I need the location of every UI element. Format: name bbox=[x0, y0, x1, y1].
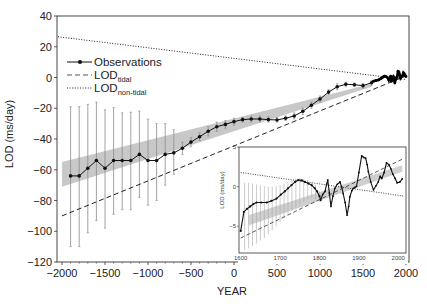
observation-marker bbox=[189, 140, 193, 144]
y-tick-label: −80 bbox=[33, 195, 52, 207]
inset-marker bbox=[322, 194, 324, 196]
inset-marker bbox=[381, 178, 383, 180]
inset-marker bbox=[354, 187, 356, 189]
telescopic-marker bbox=[390, 80, 393, 83]
inset-marker bbox=[318, 195, 320, 197]
y-tick-label: −40 bbox=[33, 133, 52, 145]
inset-x-tick-label: 1700 bbox=[273, 255, 287, 261]
inset-marker bbox=[396, 182, 398, 184]
inset-marker bbox=[401, 178, 403, 180]
observation-marker bbox=[241, 118, 245, 122]
y-tick-label: 20 bbox=[40, 41, 52, 53]
y-tick-label: 0 bbox=[46, 72, 52, 84]
inset-marker bbox=[316, 190, 318, 192]
observation-marker bbox=[284, 116, 288, 120]
observation-marker bbox=[335, 85, 339, 89]
observation-marker bbox=[129, 159, 133, 163]
observation-marker bbox=[232, 120, 236, 124]
inset-marker bbox=[346, 214, 348, 216]
observation-marker bbox=[301, 110, 305, 114]
inset-marker bbox=[361, 155, 363, 157]
x-tick-label: 2000 bbox=[394, 267, 418, 279]
observation-marker bbox=[146, 159, 150, 163]
observation-marker bbox=[344, 82, 348, 86]
inset-marker bbox=[284, 190, 286, 192]
inset-x-tick-label: 2000 bbox=[392, 255, 406, 261]
inset-marker bbox=[255, 201, 257, 203]
lod-chart: −120−100−80−60−40−2002040−2000−1500−1000… bbox=[0, 0, 427, 306]
legend-item: LODnon-tidal bbox=[67, 82, 147, 97]
observation-marker bbox=[206, 130, 210, 134]
legend-label: LODnon-tidal bbox=[94, 82, 147, 97]
inset-marker bbox=[266, 201, 268, 203]
inset-marker bbox=[240, 230, 242, 232]
inset-marker bbox=[351, 190, 353, 192]
inset-marker bbox=[290, 184, 292, 186]
inset-marker bbox=[390, 168, 392, 170]
inset-marker bbox=[326, 183, 328, 185]
inset-marker bbox=[243, 211, 245, 213]
observation-marker bbox=[155, 159, 159, 163]
observation-marker bbox=[361, 84, 365, 88]
inset-marker bbox=[304, 181, 306, 183]
inset-marker bbox=[270, 200, 272, 202]
x-tick-label: −1000 bbox=[133, 267, 164, 279]
inset-marker bbox=[399, 181, 401, 183]
observation-marker bbox=[327, 90, 331, 94]
inset-marker bbox=[388, 164, 390, 166]
inset-y-tick-label: 0 bbox=[233, 184, 237, 190]
inset-marker bbox=[280, 194, 282, 196]
inset-marker bbox=[367, 171, 369, 173]
inset-marker bbox=[348, 206, 350, 208]
observation-marker bbox=[318, 97, 322, 101]
observation-marker bbox=[112, 159, 116, 163]
inset-marker bbox=[370, 181, 372, 183]
inset-x-tick-label: 1600 bbox=[234, 255, 248, 261]
inset-marker bbox=[358, 172, 360, 174]
inset-marker bbox=[379, 176, 381, 178]
inset-marker bbox=[336, 183, 338, 185]
inset-marker bbox=[375, 185, 377, 187]
inset-marker bbox=[260, 201, 262, 203]
inset-marker bbox=[249, 205, 251, 207]
inset-marker bbox=[356, 185, 358, 187]
legend-item: Observations bbox=[67, 56, 162, 68]
inset-marker bbox=[341, 186, 343, 188]
legend-marker-icon bbox=[78, 60, 82, 64]
inset-marker bbox=[386, 162, 388, 164]
telescopic-marker bbox=[377, 79, 380, 82]
observation-marker bbox=[292, 114, 296, 118]
y-axis-label: LOD (ms/day) bbox=[3, 100, 15, 168]
x-tick-label: 0 bbox=[231, 267, 237, 279]
observation-marker bbox=[86, 166, 90, 170]
inset-y-axis-label: LOD (ms/day) bbox=[219, 171, 225, 208]
inset-marker bbox=[342, 193, 344, 195]
x-tick-label: −500 bbox=[179, 267, 204, 279]
inset-chart: −50516001700180019002000LOD (ms/day) bbox=[219, 144, 408, 264]
x-tick-label: 500 bbox=[268, 267, 286, 279]
telescopic-marker bbox=[405, 75, 408, 78]
observation-marker bbox=[353, 83, 357, 87]
observation-marker bbox=[198, 135, 202, 139]
inset-marker bbox=[339, 181, 341, 183]
inset-marker bbox=[373, 189, 375, 191]
inset-marker bbox=[394, 178, 396, 180]
y-tick-label: −100 bbox=[27, 225, 52, 237]
telescopic-marker bbox=[375, 79, 378, 82]
telescopic-marker bbox=[397, 71, 400, 74]
x-axis-label: YEAR bbox=[217, 285, 247, 297]
inset-background bbox=[238, 146, 408, 264]
observation-marker bbox=[215, 125, 219, 129]
inset-marker bbox=[324, 191, 326, 193]
inset-marker bbox=[344, 202, 346, 204]
observation-marker bbox=[275, 118, 279, 122]
inset-marker bbox=[383, 172, 385, 174]
inset-x-tick-label: 1900 bbox=[352, 255, 366, 261]
observation-marker bbox=[224, 123, 228, 127]
observation-marker bbox=[258, 117, 262, 121]
inset-marker bbox=[297, 179, 299, 181]
inset-marker bbox=[311, 184, 313, 186]
inset-marker bbox=[307, 182, 309, 184]
inset-marker bbox=[392, 173, 394, 175]
inset-y-tick-label: −5 bbox=[229, 223, 237, 229]
